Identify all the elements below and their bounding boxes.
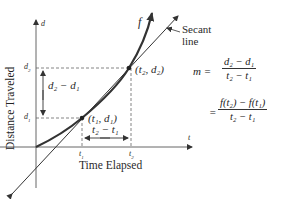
formula-fraction-1: d₂ − d₁ t₂ − t₁ [222, 56, 256, 81]
fraction-2-denominator: t₂ − t₁ [230, 110, 255, 122]
point-t1-d1 [80, 116, 85, 121]
fraction-2-numerator: f(t₂) − f(t₁) [218, 97, 267, 110]
secant-label-line1: Secant [182, 24, 211, 35]
tick-d2: d2 [24, 63, 31, 73]
formula-lhs: m = [193, 65, 211, 77]
formula-fraction-2: f(t₂) − f(t₁) t₂ − t₁ [218, 97, 267, 122]
x-axis-letter: t [188, 134, 190, 142]
tick-t2: t2 [129, 150, 134, 160]
secant-label-line2: line [182, 36, 199, 47]
fraction-1-numerator: d₂ − d₁ [222, 56, 256, 69]
interval-label-horizontal: t₂ − t₁ [92, 124, 119, 135]
fraction-1-denominator: t₂ − t₁ [226, 69, 251, 81]
x-axis-title: Time Elapsed [79, 160, 142, 172]
point-t2-d2 [127, 66, 132, 71]
formula-equals-2: = [209, 106, 216, 118]
tick-d1: d1 [24, 113, 31, 123]
curve-label-f: f [138, 16, 141, 28]
y-axis-letter: d [41, 20, 45, 28]
secant-line-diagram: d t Distance Traveled Time Elapsed d2 d1… [0, 0, 291, 203]
tick-t1: t1 [79, 150, 84, 160]
interval-label-vertical: d₂ − d₁ [48, 80, 80, 91]
y-axis-title: Distance Traveled [4, 67, 16, 150]
secant-label-pointer [167, 28, 180, 32]
point-label-t2-d2: (t₂, d₂) [135, 64, 164, 75]
